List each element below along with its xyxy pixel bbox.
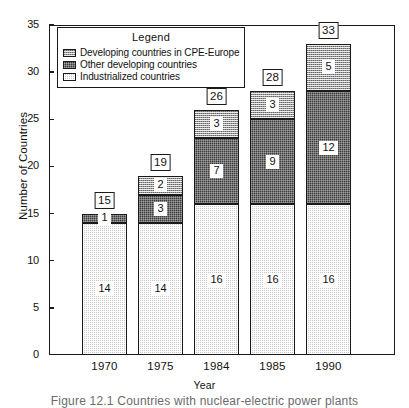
segment-value-label: 3 [266, 98, 278, 112]
bar-total-label-1985: 28 [262, 69, 283, 86]
x-axis-title: Year [0, 379, 409, 391]
y-tick-label-35: 35 [27, 19, 39, 30]
y-tick-mark-35 [49, 24, 54, 25]
x-tick-label-1985: 1985 [250, 360, 295, 372]
segment-value-label: 7 [210, 164, 222, 178]
y-tick-label-30: 30 [27, 66, 39, 77]
legend-item-1[interactable]: Other developing countries [63, 59, 239, 71]
legend-box: Legend Developing countries in CPE-Europ… [57, 27, 245, 88]
bar-segment-cpe_europe-1975[interactable]: 2 [138, 176, 183, 195]
segment-value-label: 9 [266, 155, 278, 169]
legend-item-0[interactable]: Developing countries in CPE-Europe [63, 47, 239, 59]
x-tick-label-1970: 1970 [82, 360, 127, 372]
legend-swatch-icon-1 [63, 61, 76, 69]
segment-value-label: 5 [322, 60, 334, 74]
bar-total-label-1984: 26 [206, 88, 227, 105]
y-tick-mark-20 [49, 166, 54, 167]
legend-item-label: Developing countries in CPE-Europe [80, 47, 239, 59]
bar-segment-other_developing-1990[interactable]: 12 [306, 91, 351, 204]
legend-item-label: Industrialized countries [80, 71, 180, 83]
bar-segment-industrialized-1970[interactable]: 14 [82, 223, 127, 355]
x-tick-label-1990: 1990 [306, 360, 351, 372]
bar-segment-industrialized-1984[interactable]: 16 [194, 204, 239, 355]
legend-rows: Developing countries in CPE-EuropeOther … [63, 47, 239, 83]
legend-item-label: Other developing countries [80, 59, 197, 71]
y-axis-title: Number of Countries [17, 91, 29, 241]
x-tick-label-1984: 1984 [194, 360, 239, 372]
bar-1975[interactable]: 143219 [138, 176, 183, 355]
segment-value-label: 14 [151, 282, 169, 296]
x-tick-label-1975: 1975 [138, 360, 183, 372]
y-tick-mark-15 [49, 213, 54, 214]
bar-total-label-1970: 15 [94, 192, 115, 209]
segment-value-label: 3 [154, 202, 166, 216]
bar-1985[interactable]: 169328 [250, 91, 295, 355]
bar-segment-other_developing-1984[interactable]: 7 [194, 138, 239, 204]
segment-value-label: 16 [207, 273, 225, 287]
legend-title: Legend [63, 31, 239, 44]
bar-1984[interactable]: 167326 [194, 110, 239, 355]
bar-segment-cpe_europe-1984[interactable]: 3 [194, 110, 239, 138]
bar-segment-industrialized-1985[interactable]: 16 [250, 204, 295, 355]
legend-item-2[interactable]: Industrialized countries [63, 71, 239, 83]
segment-value-label: 16 [319, 273, 337, 287]
segment-value-label: 12 [319, 141, 337, 155]
bar-segment-other_developing-1970[interactable]: 1 [82, 214, 127, 223]
y-tick-mark-25 [49, 119, 54, 120]
y-tick-label-10: 10 [27, 255, 39, 266]
legend-swatch-icon-2 [63, 73, 76, 81]
bar-1970[interactable]: 14115 [82, 214, 127, 355]
segment-value-label: 16 [263, 273, 281, 287]
bar-segment-industrialized-1990[interactable]: 16 [306, 204, 351, 355]
y-tick-mark-30 [49, 71, 54, 72]
bar-segment-other_developing-1985[interactable]: 9 [250, 119, 295, 204]
legend-swatch-icon-0 [63, 49, 76, 57]
segment-value-label: 14 [95, 282, 113, 296]
segment-value-label: 3 [210, 117, 222, 131]
segment-value-label: 2 [154, 178, 166, 192]
figure-caption: Figure 12.1 Countries with nuclear-elect… [0, 394, 409, 408]
bar-total-label-1975: 19 [150, 154, 171, 171]
bar-segment-other_developing-1975[interactable]: 3 [138, 195, 183, 223]
segment-value-label: 1 [98, 211, 110, 225]
bar-segment-industrialized-1975[interactable]: 14 [138, 223, 183, 355]
bar-segment-cpe_europe-1985[interactable]: 3 [250, 91, 295, 119]
y-tick-mark-10 [49, 260, 54, 261]
y-tick-mark-5 [49, 307, 54, 308]
bar-total-label-1990: 33 [318, 22, 339, 39]
bar-segment-cpe_europe-1990[interactable]: 5 [306, 44, 351, 91]
y-tick-label-0: 0 [33, 349, 39, 360]
bar-1990[interactable]: 1612533 [306, 44, 351, 355]
y-tick-label-5: 5 [33, 302, 39, 313]
